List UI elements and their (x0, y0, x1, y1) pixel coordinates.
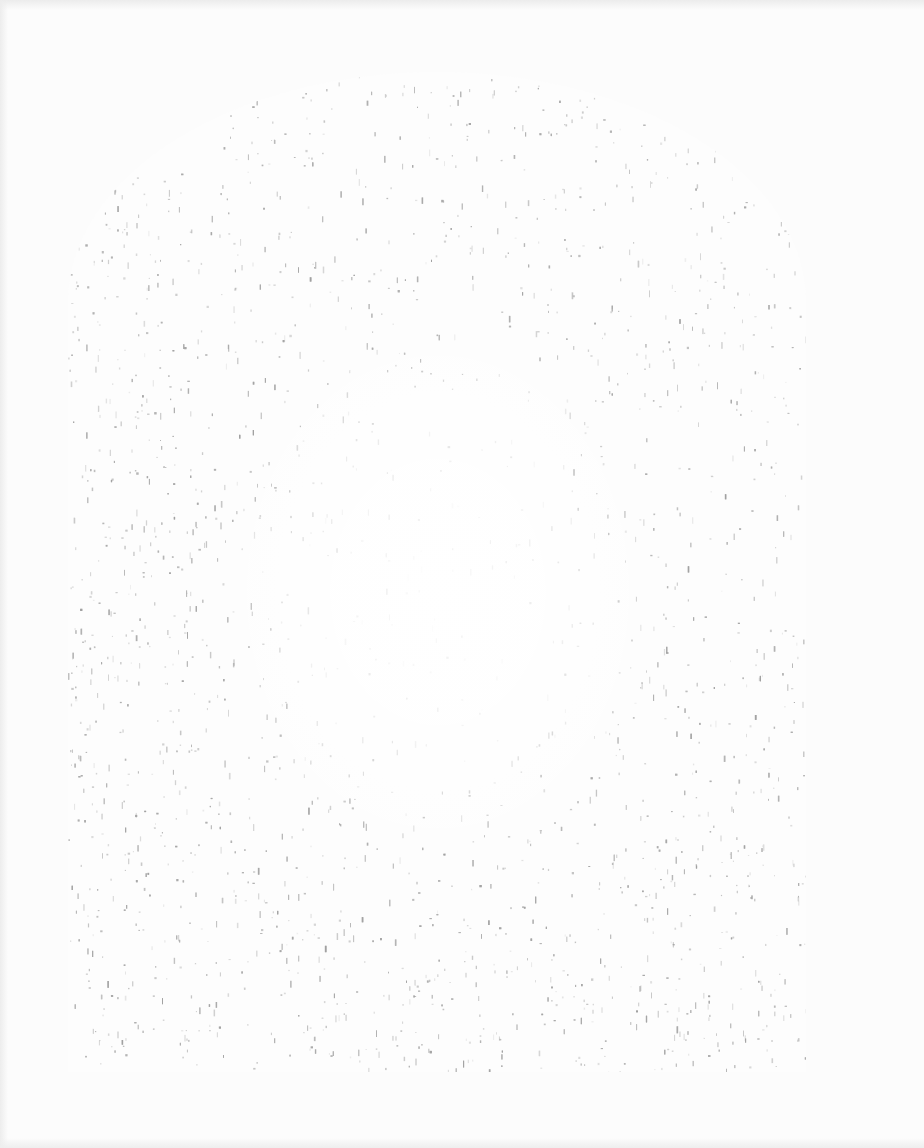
scanned-page (0, 0, 924, 1148)
faded-arch-print (68, 72, 806, 1072)
scan-shadow-top (0, 0, 924, 10)
scan-shadow-bottom (0, 1138, 924, 1148)
scan-shadow-left (0, 0, 8, 1148)
faded-center (228, 332, 648, 852)
